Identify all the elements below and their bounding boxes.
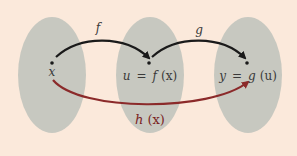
label-hx: h (x)	[135, 110, 165, 127]
point-u	[147, 61, 151, 65]
label-u-fx: u = f (x)	[123, 66, 177, 83]
composition-diagram: f g x u = f (x) y = g (u) h (x)	[0, 0, 297, 156]
point-y	[245, 61, 249, 65]
label-f: f	[95, 21, 103, 35]
diagram-canvas: f g x u = f (x) y = g (u) h (x)	[0, 0, 297, 156]
label-g: g	[195, 23, 203, 37]
label-y-gu: y = g (u)	[218, 66, 277, 83]
label-x: x	[49, 65, 56, 79]
